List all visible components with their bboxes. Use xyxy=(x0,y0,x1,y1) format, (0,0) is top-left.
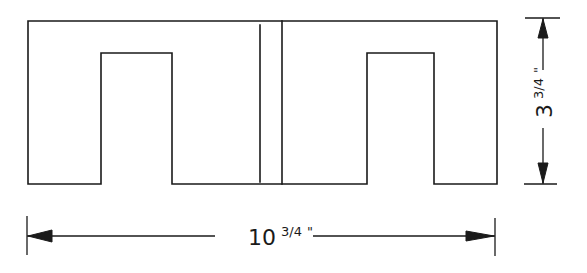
width-dim-label: 10 3/4 " xyxy=(248,221,313,250)
height-unit: " xyxy=(531,67,546,73)
width-fraction: 3/4 xyxy=(281,224,302,239)
core-outline xyxy=(28,21,497,184)
arrow-left-icon xyxy=(28,230,52,242)
height-fraction: 3/4 xyxy=(531,78,546,99)
arrow-right-icon xyxy=(466,231,494,241)
height-whole: 3 xyxy=(532,104,557,118)
height-dim-label: 3 3/4 " xyxy=(528,67,557,118)
height-dimension: 3 3/4 " xyxy=(524,18,560,184)
width-whole: 10 xyxy=(248,225,276,250)
core-drawing: 10 3/4 " 3 3/4 " xyxy=(0,0,587,273)
width-unit: " xyxy=(307,224,313,239)
width-dimension: 10 3/4 " xyxy=(27,216,495,256)
arrow-down-icon xyxy=(538,163,548,183)
arrow-up-icon xyxy=(538,19,548,38)
